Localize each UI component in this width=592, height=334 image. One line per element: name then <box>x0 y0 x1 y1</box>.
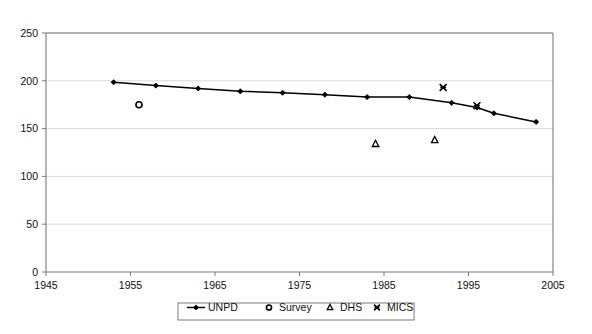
x-tick-label-1975: 1975 <box>288 279 312 291</box>
x-tick-label-1965: 1965 <box>203 279 227 291</box>
y-tick-label-50: 50 <box>26 218 38 230</box>
x-tick-label-1955: 1955 <box>119 279 143 291</box>
legend-label-dhs: DHS <box>340 301 362 313</box>
y-tick-label-200: 200 <box>20 75 38 87</box>
legend-label-survey: Survey <box>279 301 312 313</box>
legend-label-mics: MICS <box>387 301 413 313</box>
chart-legend: UNPDSurveyDHSMICS <box>178 301 414 320</box>
x-tick-label-1995: 1995 <box>457 279 481 291</box>
y-tick-label-0: 0 <box>32 266 38 278</box>
x-tick-label-1945: 1945 <box>34 279 58 291</box>
legend-label-unpd: UNPD <box>208 301 238 313</box>
chart-container: 050100150200250 194519551965197519851995… <box>0 0 592 334</box>
y-tick-label-250: 250 <box>20 27 38 39</box>
y-tick-label-100: 100 <box>20 170 38 182</box>
x-tick-label-2005: 2005 <box>541 279 565 291</box>
x-tick-label-1985: 1985 <box>372 279 396 291</box>
line-chart: 050100150200250 194519551965197519851995… <box>0 0 592 334</box>
y-tick-label-150: 150 <box>20 122 38 134</box>
